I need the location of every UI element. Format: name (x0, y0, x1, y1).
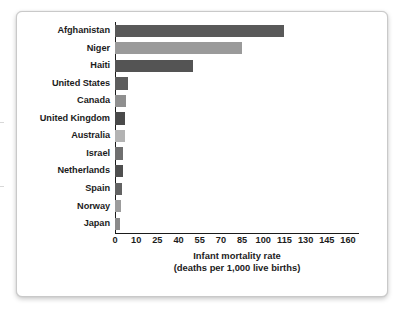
bar (115, 95, 126, 107)
x-axis-title-line2: (deaths per 1,000 live births) (115, 262, 359, 273)
x-tick-label: 160 (340, 235, 355, 245)
category-label: Spain (6, 180, 110, 198)
category-label: Australia (6, 127, 110, 145)
bar (115, 77, 128, 89)
category-label: Israel (6, 145, 110, 163)
x-tick-label: 40 (173, 235, 183, 245)
bar (115, 25, 284, 37)
x-tick-label: 55 (195, 235, 205, 245)
category-label-row: Afghanistan (0, 22, 110, 40)
bar (115, 147, 123, 159)
bar (115, 218, 120, 230)
x-tick-label: 100 (256, 235, 271, 245)
category-label: Niger (6, 40, 110, 58)
bar (115, 112, 125, 124)
category-label-row: United Kingdom (0, 110, 110, 128)
x-tick-label: 130 (298, 235, 313, 245)
category-label-row: Haiti (0, 57, 110, 75)
plot-area: AfghanistanNigerHaitiUnited StatesCanada… (0, 0, 409, 310)
category-label: United Kingdom (6, 110, 110, 128)
bar (115, 42, 242, 54)
category-label: Canada (6, 92, 110, 110)
x-axis-title-line1: Infant mortality rate (115, 250, 359, 261)
bar (115, 60, 193, 72)
category-label-row: Netherlands (0, 162, 110, 180)
category-label: Afghanistan (6, 22, 110, 40)
category-label: Norway (6, 198, 110, 216)
category-label-row: Canada (0, 92, 110, 110)
category-label-row: Niger (0, 40, 110, 58)
x-tick-label: 70 (216, 235, 226, 245)
x-tick-label: 0 (112, 235, 117, 245)
category-label-row: Israel (0, 145, 110, 163)
bar (115, 200, 121, 212)
category-label-row: Australia (0, 127, 110, 145)
category-label-row: Japan (0, 215, 110, 233)
x-tick-label: 85 (237, 235, 247, 245)
category-label-row: Norway (0, 198, 110, 216)
bar (115, 130, 125, 142)
x-axis-line (115, 233, 359, 234)
bar (115, 165, 123, 177)
category-label-row: United States (0, 75, 110, 93)
bar (115, 183, 122, 195)
x-tick-label: 10 (131, 235, 141, 245)
category-label-row: Spain (0, 180, 110, 198)
category-label: United States (6, 75, 110, 93)
category-label: Haiti (6, 57, 110, 75)
x-tick-label: 115 (277, 235, 292, 245)
x-tick-label: 25 (152, 235, 162, 245)
x-tick-label: 145 (319, 235, 334, 245)
category-label: Netherlands (6, 162, 110, 180)
category-label: Japan (6, 215, 110, 233)
chart-figure: AfghanistanNigerHaitiUnited StatesCanada… (0, 0, 409, 310)
